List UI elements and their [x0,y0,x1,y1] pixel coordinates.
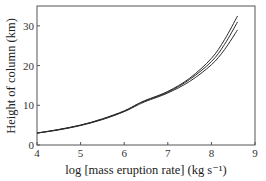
x-tick-label: 7 [165,147,171,159]
y-axis-label: Height of column (km) [4,18,18,134]
y-tick-label: 10 [23,99,35,111]
x-tick-label: 5 [78,147,84,159]
x-tick-label: 6 [121,147,127,159]
y-tick-label: 30 [23,20,35,32]
x-tick-label: 4 [34,147,40,159]
data-series [37,16,238,133]
series-line-curve-upper [37,16,238,133]
series-line-curve-lower [37,30,238,133]
x-tick-label: 9 [252,147,258,159]
y-tick-label: 20 [23,60,35,72]
x-tick-label: 8 [209,147,215,159]
y-tick-label: 0 [29,139,35,151]
chart: 456789 0102030 log [mass eruption rate] … [0,0,266,181]
plot-border [37,6,255,145]
x-axis-label: log [mass eruption rate] (kg s⁻¹) [65,163,226,177]
plot-frame [37,6,255,145]
series-line-curve-middle [37,22,238,133]
